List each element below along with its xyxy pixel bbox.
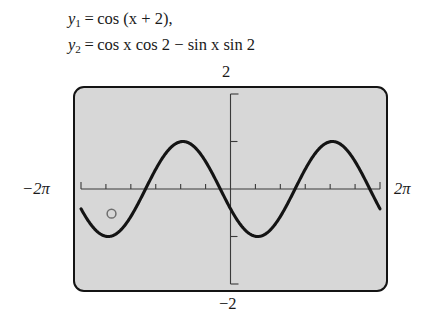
- axes-group: [81, 94, 380, 284]
- x-axis-max-label: 2π: [394, 181, 411, 198]
- trace-point-marker: [107, 209, 116, 218]
- x-axis-min-label: −2π: [22, 181, 50, 198]
- graph-plot: [73, 86, 388, 292]
- y-axis-min-label: −2: [219, 296, 237, 313]
- marker-group: [107, 209, 116, 218]
- graph-figure: 2 −2 −2π 2π: [0, 0, 429, 326]
- y-axis-max-label: 2: [222, 64, 230, 81]
